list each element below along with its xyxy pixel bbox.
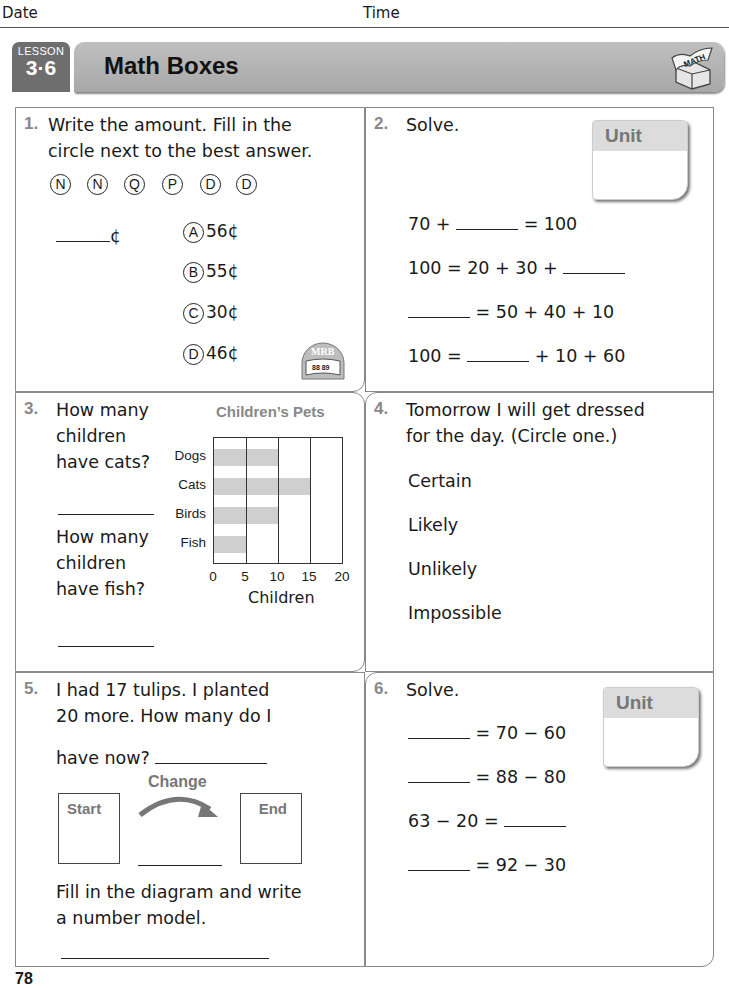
question-number: 3. — [24, 399, 38, 419]
lesson-badge: LESSON 3·6 — [12, 42, 70, 92]
bar-chart-plot — [213, 437, 343, 564]
equation: = 88 − 80 — [408, 765, 566, 787]
equation: = 50 + 40 + 10 — [408, 300, 614, 322]
x-tick: 10 — [267, 569, 287, 584]
equation: 100 = + 10 + 60 — [408, 344, 625, 366]
coin-penny: P — [162, 174, 183, 195]
cats-answer-blank[interactable] — [58, 497, 154, 515]
change-blank[interactable] — [138, 848, 222, 866]
unit-box[interactable]: Unit — [603, 687, 699, 767]
page-number: 78 — [15, 970, 33, 988]
option-impossible[interactable]: Impossible — [408, 603, 502, 623]
mrb-book-icon: MRB 88 89 — [298, 341, 348, 383]
math-box-4: 4. Tomorrow I will get dressed for the d… — [365, 392, 714, 672]
y-label-fish: Fish — [156, 535, 206, 550]
option-likely[interactable]: Likely — [408, 515, 458, 535]
answer-blank[interactable] — [467, 344, 529, 362]
choice-a[interactable]: A56¢ — [183, 221, 238, 243]
time-label: Time — [363, 4, 400, 22]
chart-title: Children’s Pets — [216, 403, 325, 420]
question-number: 1. — [24, 114, 38, 134]
y-label-dogs: Dogs — [156, 448, 206, 463]
coin-quarter: Q — [124, 174, 145, 195]
x-tick: 20 — [332, 569, 352, 584]
coin-nickel: N — [50, 174, 71, 195]
change-arrow-icon — [136, 791, 222, 821]
gridline — [310, 438, 311, 563]
question-prompt: Solve. — [406, 112, 459, 138]
gridline — [278, 438, 279, 563]
choice-bubble[interactable]: B — [183, 262, 204, 283]
equation: 70 + = 100 — [408, 212, 577, 234]
end-box[interactable]: End — [240, 793, 302, 864]
x-tick: 0 — [203, 569, 223, 584]
choice-bubble[interactable]: C — [183, 303, 204, 324]
x-axis-label: Children — [248, 588, 315, 607]
title-bar: Math Boxes MATH — [74, 42, 724, 92]
choice-d[interactable]: D46¢ — [183, 343, 238, 365]
x-tick: 15 — [299, 569, 319, 584]
bar-fish — [214, 536, 246, 553]
change-label: Change — [148, 773, 207, 791]
answer-blank[interactable] — [408, 765, 470, 783]
choice-bubble[interactable]: A — [183, 222, 204, 243]
equation: = 70 − 60 — [408, 721, 566, 743]
math-box-1: 1. Write the amount. Fill in the circle … — [15, 107, 365, 392]
lesson-number: 3·6 — [12, 57, 70, 79]
option-certain[interactable]: Certain — [408, 471, 472, 491]
answer-blank[interactable] — [504, 809, 566, 827]
math-box-2: 2. Solve. Unit 70 + = 100 100 = 20 + 30 … — [365, 107, 714, 392]
question-fish: How manychildrenhave fish? — [56, 524, 149, 602]
unit-box[interactable]: Unit — [592, 120, 688, 200]
answer-blank[interactable] — [408, 853, 470, 871]
question-prompt: Solve. — [406, 677, 459, 703]
answer-blank[interactable] — [155, 746, 267, 764]
question-text: Write the amount. Fill in the circle nex… — [48, 112, 312, 164]
math-boxes-grid: 1. Write the amount. Fill in the circle … — [15, 107, 714, 967]
question-text-line3: have now? — [56, 745, 267, 771]
equation: 63 − 20 = — [408, 809, 566, 831]
equation: = 92 − 30 — [408, 853, 566, 875]
number-model-blank[interactable] — [61, 941, 269, 959]
math-box-6: 6. Solve. Unit = 70 − 60 = 88 − 80 63 − … — [365, 672, 714, 967]
question-number: 2. — [374, 114, 388, 134]
answer-blank[interactable] — [408, 721, 470, 739]
name-date-line: Date Time — [0, 0, 729, 28]
start-box[interactable]: Start — [58, 793, 120, 864]
x-tick: 5 — [235, 569, 255, 584]
math-box-3: 3. How manychildrenhave cats? How manych… — [15, 392, 365, 672]
unit-label: Unit — [604, 688, 698, 718]
bar-cats — [214, 478, 310, 495]
question-number: 4. — [374, 399, 388, 419]
unit-label: Unit — [593, 121, 687, 151]
svg-text:88 89: 88 89 — [312, 364, 330, 371]
math-box-icon: MATH — [666, 44, 716, 90]
question-number: 5. — [24, 679, 38, 699]
y-label-birds: Birds — [156, 506, 206, 521]
math-box-5: 5. I had 17 tulips. I planted 20 more. H… — [15, 672, 365, 967]
date-label: Date — [2, 4, 38, 22]
question-cats: How manychildrenhave cats? — [56, 397, 150, 475]
equation: 100 = 20 + 30 + — [408, 256, 625, 278]
coin-dime: D — [200, 174, 221, 195]
svg-text:MRB: MRB — [311, 346, 335, 357]
choice-b[interactable]: B55¢ — [183, 261, 238, 283]
option-unlikely[interactable]: Unlikely — [408, 559, 477, 579]
instruction-text: Fill in the diagram and write a number m… — [56, 879, 302, 931]
answer-blank[interactable] — [408, 300, 470, 318]
gridline — [246, 438, 247, 563]
question-number: 6. — [374, 679, 388, 699]
question-text: Tomorrow I will get dressed for the day.… — [406, 397, 645, 449]
coin-dime: D — [236, 174, 257, 195]
choice-c[interactable]: C30¢ — [183, 302, 238, 324]
question-text: I had 17 tulips. I planted 20 more. How … — [56, 677, 271, 729]
fish-answer-blank[interactable] — [58, 629, 154, 647]
amount-answer: ¢ — [56, 224, 121, 246]
coin-nickel: N — [87, 174, 108, 195]
y-label-cats: Cats — [156, 477, 206, 492]
answer-blank[interactable] — [563, 256, 625, 274]
page-title: Math Boxes — [104, 52, 239, 80]
answer-blank[interactable] — [456, 212, 518, 230]
choice-bubble[interactable]: D — [183, 344, 204, 365]
amount-blank[interactable] — [56, 224, 110, 242]
